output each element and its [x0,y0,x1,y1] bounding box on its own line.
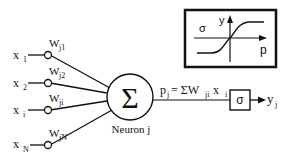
input-node-icon [45,80,52,87]
input-1: x 1 W j1 [13,37,65,64]
input-node-icon [45,107,52,114]
svg-text:x: x [13,76,19,90]
svg-text:j2: j2 [58,71,65,80]
svg-text:2: 2 [23,83,27,92]
input-node-icon [45,142,52,149]
svg-text:x: x [13,103,19,117]
neuron: Σ Neuron j [107,74,153,135]
svg-text:p: p [260,43,267,57]
summation-symbol: Σ [121,81,138,114]
sum-expression: p j = ΣW ji x i [160,83,228,99]
svg-text:y: y [267,91,274,106]
neuron-diagram: x 1 W j1 x 2 W j2 x i W ji x N W jN Σ Ne… [0,0,288,160]
svg-text:N: N [23,145,29,154]
svg-text:i: i [225,90,228,99]
svg-text:ji: ji [204,90,210,99]
sigmoid-inset: σ y p [185,10,276,67]
input-i: x i W ji [13,92,64,119]
svg-text:= ΣW: = ΣW [171,83,200,97]
svg-text:j: j [274,100,277,109]
svg-text:i: i [23,110,26,119]
sigma-symbol: σ [236,93,244,107]
svg-text:x: x [13,48,19,62]
svg-text:x: x [13,137,19,151]
svg-text:ji: ji [58,98,64,107]
input-2: x 2 W j2 [13,65,65,92]
activation-box: σ [230,90,250,110]
input-node-icon [45,52,52,59]
svg-text:1: 1 [23,55,27,64]
input-N: x N W jN [13,127,67,154]
svg-text:σ: σ [199,22,206,34]
svg-text:x: x [213,83,219,97]
svg-text:j: j [166,90,169,99]
svg-text:j1: j1 [58,43,65,52]
output-arrow: y j [250,91,277,109]
svg-text:y: y [219,14,225,26]
svg-text:jN: jN [58,133,67,142]
arrow-head-icon [258,97,266,104]
svg-text:p: p [160,83,166,97]
neuron-label: Neuron j [112,123,151,135]
